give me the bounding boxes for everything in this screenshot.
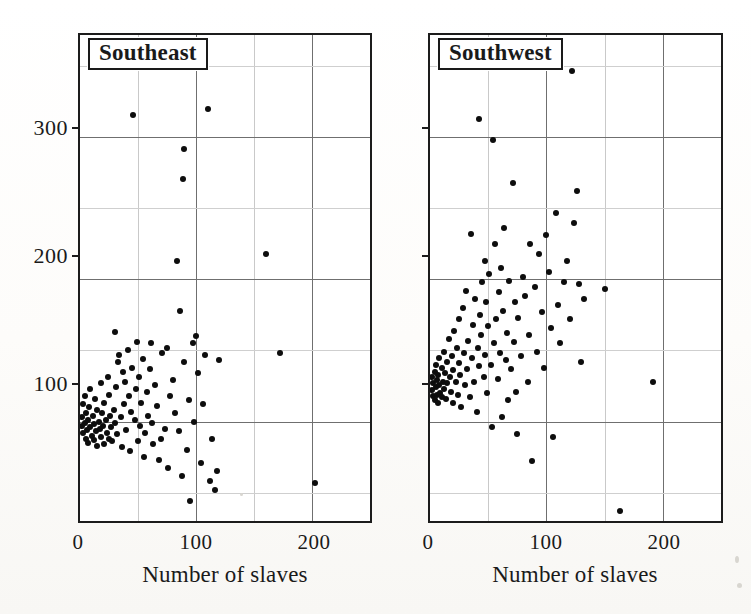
data-point	[441, 349, 447, 355]
data-point	[546, 269, 552, 275]
data-point	[482, 258, 488, 264]
data-point	[488, 362, 494, 368]
data-point	[511, 339, 517, 345]
data-point	[581, 296, 587, 302]
data-point	[525, 379, 531, 385]
data-point	[450, 400, 456, 406]
grid-line-horizontal-major	[430, 279, 721, 280]
data-point	[478, 332, 484, 338]
data-point	[495, 376, 501, 382]
x-axis-title-southwest: Number of slaves	[408, 562, 742, 588]
data-point	[435, 400, 441, 406]
grid-line-horizontal-minor	[430, 208, 721, 209]
y-tick-300-southwest	[422, 127, 429, 129]
data-point	[506, 278, 512, 284]
panel-southwest: Southwest 0 100 200 Number of slaves	[0, 0, 751, 614]
data-point	[514, 431, 520, 437]
data-point	[512, 299, 518, 305]
data-point	[553, 210, 559, 216]
data-point	[493, 316, 499, 322]
data-point	[433, 362, 439, 368]
data-point	[520, 274, 526, 280]
grid-line-vertical-major	[546, 35, 547, 521]
data-point	[567, 316, 573, 322]
data-point	[462, 382, 468, 388]
data-point	[484, 390, 490, 396]
panel-title-southwest: Southwest	[438, 38, 563, 70]
scan-speck	[737, 583, 742, 588]
data-point	[435, 372, 441, 378]
data-point	[534, 349, 540, 355]
data-point	[446, 336, 452, 342]
data-point	[470, 322, 476, 328]
data-point	[483, 299, 489, 305]
grid-line-horizontal-minor	[430, 350, 721, 351]
data-point	[539, 309, 545, 315]
y-tick-200-southwest	[422, 255, 429, 257]
data-point	[490, 137, 496, 143]
data-point	[561, 279, 567, 285]
data-point	[464, 366, 470, 372]
data-point	[485, 323, 491, 329]
data-point	[503, 357, 509, 363]
data-point	[550, 434, 556, 440]
data-point	[477, 312, 483, 318]
data-point	[496, 289, 502, 295]
data-point	[491, 340, 497, 346]
data-point	[460, 305, 466, 311]
data-point	[548, 325, 554, 331]
data-point	[532, 284, 538, 290]
data-point	[467, 394, 473, 400]
data-point	[504, 330, 510, 336]
data-point	[451, 328, 457, 334]
grid-line-vertical-major	[663, 35, 664, 521]
data-point	[571, 220, 577, 226]
data-point	[617, 508, 623, 514]
data-point	[443, 396, 449, 402]
y-tick-100-southwest	[422, 383, 429, 385]
data-point	[501, 225, 507, 231]
grid-line-horizontal-major	[430, 137, 721, 138]
data-point	[456, 360, 462, 366]
data-point	[475, 345, 481, 351]
data-point	[441, 386, 447, 392]
data-point	[449, 353, 455, 359]
data-point	[508, 366, 514, 372]
data-point	[527, 241, 533, 247]
data-point	[650, 379, 656, 385]
data-point	[457, 372, 463, 378]
data-point	[505, 397, 511, 403]
data-point	[564, 258, 570, 264]
data-point	[482, 352, 488, 358]
data-point	[541, 365, 547, 371]
data-point	[497, 350, 503, 356]
scan-speck	[735, 556, 739, 563]
data-point	[557, 340, 563, 346]
panel-title-southeast: Southeast	[88, 38, 208, 70]
data-point	[492, 241, 498, 247]
data-point	[469, 355, 475, 361]
grid-line-horizontal-minor	[430, 493, 721, 494]
data-point	[454, 345, 460, 351]
data-point	[489, 424, 495, 430]
x-tick-label-100-southwest: 100	[516, 530, 576, 555]
scan-speck	[240, 493, 243, 496]
data-point	[465, 338, 471, 344]
grid-line-horizontal-major	[430, 422, 721, 423]
data-point	[498, 265, 504, 271]
data-point	[569, 68, 575, 74]
data-point	[448, 389, 454, 395]
data-point	[455, 392, 461, 398]
data-point	[471, 379, 477, 385]
data-point	[555, 302, 561, 308]
plot-frame-southwest	[428, 33, 723, 523]
data-point	[444, 359, 450, 365]
data-point	[481, 374, 487, 380]
data-point	[479, 279, 485, 285]
data-point	[526, 332, 532, 338]
data-point	[500, 308, 506, 314]
data-point	[486, 271, 492, 277]
data-point	[444, 380, 450, 386]
x-tick-label-200-southwest: 200	[634, 530, 694, 555]
data-point	[543, 232, 549, 238]
